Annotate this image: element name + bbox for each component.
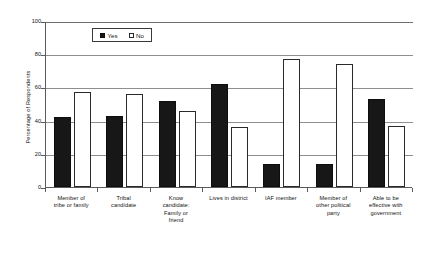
x-tick-mark: [150, 188, 151, 192]
bar-yes: [368, 99, 385, 187]
bar-no: [74, 92, 91, 187]
x-tick-mark: [45, 188, 46, 192]
y-tick-mark-20: [41, 155, 45, 156]
legend-entry-yes: Yes: [100, 32, 118, 39]
plot-area: [45, 22, 412, 188]
y-tick-label-100: 100: [19, 19, 41, 25]
x-category-line: friend: [144, 217, 208, 224]
y-tick-label-60: 60: [19, 85, 41, 91]
y-tick-mark-40: [41, 122, 45, 123]
x-category-line: government: [354, 210, 418, 217]
bar-yes: [54, 117, 71, 187]
bar-group: [106, 21, 143, 187]
bar-no: [179, 111, 196, 187]
x-category-label: Able to beeffective withgovernment: [354, 195, 418, 217]
y-tick-label-0: 0: [19, 185, 41, 191]
y-tick-mark-80: [41, 55, 45, 56]
y-tick-mark-100: [41, 22, 45, 23]
bar-no: [126, 94, 143, 187]
y-tick-mark-60: [41, 88, 45, 89]
chart-legend: Yes No: [92, 28, 152, 42]
x-category-line: Family or: [144, 210, 208, 217]
x-tick-mark: [255, 188, 256, 192]
x-tick-mark: [97, 188, 98, 192]
legend-label-yes: Yes: [108, 32, 118, 39]
legend-label-no: No: [136, 32, 144, 39]
bar-group: [263, 21, 300, 187]
bar-no: [388, 126, 405, 187]
bar-group: [316, 21, 353, 187]
x-tick-mark: [202, 188, 203, 192]
legend-entry-no: No: [129, 32, 144, 39]
legend-swatch-yes: [100, 33, 105, 38]
y-tick-label-20: 20: [19, 152, 41, 158]
bar-yes: [263, 164, 280, 187]
bar-no: [231, 127, 248, 187]
bar-chart-figure: Percentage of Respondents Yes No 0204060…: [0, 0, 427, 256]
bar-no: [283, 59, 300, 187]
bar-yes: [316, 164, 333, 187]
x-tick-mark: [307, 188, 308, 192]
bar-yes: [106, 116, 123, 187]
legend-swatch-no: [129, 33, 134, 38]
bar-yes: [211, 84, 228, 187]
x-category-line: effective with: [354, 202, 418, 209]
bar-group: [211, 21, 248, 187]
bar-yes: [159, 101, 176, 187]
x-category-line: Able to be: [354, 195, 418, 202]
y-tick-label-80: 80: [19, 52, 41, 58]
x-tick-mark: [360, 188, 361, 192]
x-tick-mark: [412, 188, 413, 192]
bar-group: [54, 21, 91, 187]
bar-group: [368, 21, 405, 187]
bar-no: [336, 64, 353, 187]
y-tick-label-40: 40: [19, 119, 41, 125]
bar-group: [159, 21, 196, 187]
x-category-line: candidate:: [144, 202, 208, 209]
